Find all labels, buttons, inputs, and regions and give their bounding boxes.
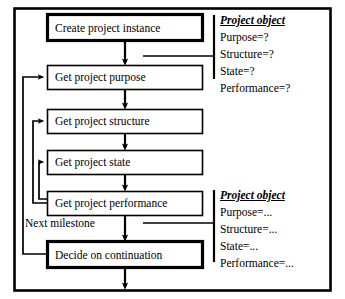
annotation-title-project-object-unknown: Project object — [220, 15, 285, 27]
diagram-vector-layer — [0, 0, 345, 299]
annotation-attribute-performance-unknown: Performance=? — [220, 83, 290, 95]
annotation-title-project-object-known: Project object — [220, 190, 285, 202]
label-create-project-instance: Create project instance — [55, 23, 160, 35]
annotation-attribute-performance-known: Performance=... — [220, 258, 294, 270]
label-decide-on-continuation: Decide on continuation — [55, 250, 162, 262]
label-get-project-state: Get project state — [55, 157, 130, 169]
label-get-project-purpose: Get project purpose — [55, 72, 146, 84]
annotation-attribute-state-known: State=... — [220, 241, 258, 253]
label-get-project-structure: Get project structure — [55, 116, 150, 128]
annotation-attribute-structure-unknown: Structure=? — [220, 49, 274, 61]
loop-performance-to-state — [39, 162, 47, 199]
label-next-milestone: Next milestone — [25, 218, 95, 230]
flowchart-diagram: Create project instance Get project purp… — [0, 0, 345, 299]
annotation-attribute-state-unknown: State=? — [220, 66, 255, 78]
annotation-attribute-purpose-known: Purpose=... — [220, 207, 272, 219]
label-get-project-performance: Get project performance — [55, 198, 167, 210]
annotation-attribute-structure-known: Structure=... — [220, 224, 277, 236]
annotation-attribute-purpose-unknown: Purpose=? — [220, 32, 269, 44]
